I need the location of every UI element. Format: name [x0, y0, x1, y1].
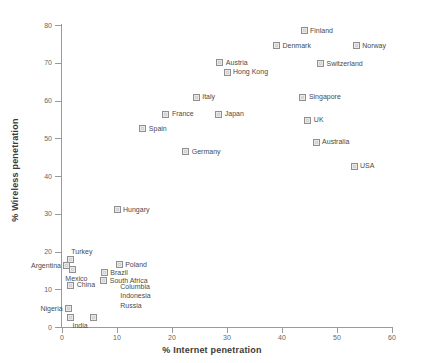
x-tick-mark	[337, 328, 338, 333]
annotation-label: Turkey	[71, 248, 92, 256]
data-point-label: Norway	[362, 42, 386, 50]
x-tick-mark	[62, 328, 63, 333]
data-point-label: Italy	[202, 93, 215, 101]
x-tick-label: 50	[322, 334, 352, 342]
x-tick-label: 20	[157, 334, 187, 342]
annotation-label: India	[72, 322, 87, 330]
data-point-marker[interactable]	[353, 42, 360, 49]
annotation-label: Indonesia	[120, 292, 150, 300]
x-tick-mark	[117, 328, 118, 333]
data-point-marker[interactable]	[67, 314, 74, 321]
y-axis-title: % Wireless penetration	[10, 90, 20, 250]
y-tick-mark	[55, 25, 61, 26]
data-point-marker[interactable]	[299, 94, 306, 101]
data-point-label: Finland	[310, 27, 333, 35]
data-point-label: UK	[314, 116, 324, 124]
y-tick-mark	[55, 101, 61, 102]
data-point-marker[interactable]	[301, 27, 308, 34]
data-point-marker[interactable]	[193, 94, 200, 101]
data-point-marker[interactable]	[216, 59, 223, 66]
data-point-marker[interactable]	[139, 125, 146, 132]
data-point-marker[interactable]	[65, 305, 72, 312]
data-point-marker[interactable]	[313, 139, 320, 146]
data-point-marker[interactable]	[114, 206, 121, 213]
x-tick-mark	[392, 328, 393, 333]
data-point-label: Australia	[322, 138, 349, 146]
annotation-label: Russia	[120, 302, 141, 310]
x-tick-mark	[282, 328, 283, 333]
data-point-marker[interactable]	[100, 277, 107, 284]
data-point-label: Poland	[125, 261, 147, 269]
data-point-label: Singapore	[309, 93, 341, 101]
data-point-marker[interactable]	[273, 42, 280, 49]
y-tick-mark	[55, 289, 61, 290]
y-tick-label: 0	[14, 324, 52, 331]
data-point-marker[interactable]	[69, 266, 76, 273]
y-tick-mark	[55, 176, 61, 177]
x-tick-label: 30	[212, 334, 242, 342]
data-point-marker[interactable]	[116, 261, 123, 268]
x-tick-mark	[172, 328, 173, 333]
x-tick-label: 10	[102, 334, 132, 342]
data-point-marker[interactable]	[162, 111, 169, 118]
y-tick-label: 70	[14, 59, 52, 66]
y-tick-mark	[55, 214, 61, 215]
x-axis-title: % Internet penetration	[0, 345, 424, 355]
data-point-label: Hong Kong	[233, 68, 268, 76]
data-point-label: Switzerland	[327, 60, 363, 68]
x-tick-label: 60	[377, 334, 407, 342]
scatter-chart-figure: 01020304050607080 0102030405060 % Intern…	[0, 0, 424, 363]
y-tick-mark	[55, 138, 61, 139]
data-point-label: USA	[360, 162, 374, 170]
annotation-label: Columbia	[120, 283, 150, 291]
data-point-marker[interactable]	[90, 314, 97, 321]
data-point-label: Nigeria	[40, 305, 62, 313]
data-point-marker[interactable]	[351, 163, 358, 170]
y-tick-mark	[55, 252, 61, 253]
data-point-label: Germany	[192, 148, 221, 156]
data-point-marker[interactable]	[182, 148, 189, 155]
y-tick-mark	[55, 327, 61, 328]
y-tick-label: 10	[14, 286, 52, 293]
data-point-marker[interactable]	[224, 69, 231, 76]
data-point-marker[interactable]	[304, 117, 311, 124]
data-point-label: Hungary	[123, 206, 149, 214]
data-point-marker[interactable]	[317, 60, 324, 67]
data-point-label: Japan	[225, 110, 244, 118]
data-point-label: Argentina	[31, 262, 61, 270]
data-point-label: Spain	[149, 125, 167, 133]
data-point-label: France	[172, 110, 194, 118]
y-tick-label: 80	[14, 22, 52, 29]
data-point-label: Austria	[226, 59, 248, 67]
data-point-marker[interactable]	[101, 269, 108, 276]
annotation-label: Mexico	[65, 275, 87, 283]
x-tick-label: 40	[267, 334, 297, 342]
data-point-label: Brazil	[110, 269, 128, 277]
data-point-marker[interactable]	[215, 111, 222, 118]
y-tick-mark	[55, 63, 61, 64]
data-point-label: Denmark	[283, 42, 311, 50]
x-tick-label: 0	[47, 334, 77, 342]
x-tick-mark	[227, 328, 228, 333]
